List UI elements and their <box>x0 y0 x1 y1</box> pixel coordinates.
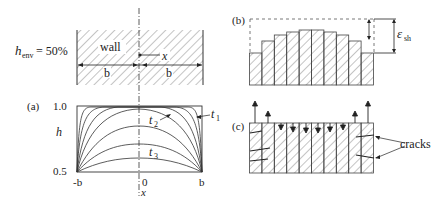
half-width-left: b <box>104 66 110 80</box>
wall-label: wall <box>100 40 121 54</box>
panel-a-tag: (a) <box>27 100 40 113</box>
panel-a-plot: (a) 1.0 0.5 h -b 0 b x t 1 t 2 t 3 <box>27 100 220 198</box>
strain-label: ε <box>397 26 403 41</box>
y-tick-top: 1.0 <box>53 100 67 112</box>
tension-arrows <box>253 101 371 123</box>
x-tick-right: b <box>199 176 205 188</box>
svg-text:2: 2 <box>154 120 158 129</box>
shrunk-strips <box>250 30 374 85</box>
wall-hatch <box>77 30 203 85</box>
figure: wall x b b h env = 50% (a) 1.0 0.5 h -b … <box>0 0 446 204</box>
half-width-right: b <box>166 66 172 80</box>
x-tick-left: -b <box>73 176 83 188</box>
env-sub: env <box>22 51 34 60</box>
env-value: = 50% <box>36 44 68 58</box>
x-label: x <box>161 49 168 63</box>
cracks-label: cracks <box>400 137 431 151</box>
panel-c-tag: (c) <box>232 120 245 133</box>
label-t1: t <box>211 107 215 121</box>
wall-section: wall x b b h env = 50% <box>15 30 203 85</box>
plot-frame <box>77 106 202 172</box>
env-h: h <box>15 43 22 58</box>
label-t3: t <box>149 145 153 159</box>
panel-b: (b) ε sh <box>232 14 411 85</box>
svg-text:1: 1 <box>216 114 220 123</box>
label-t2: t <box>149 113 153 127</box>
x-axis-label: x <box>140 186 146 198</box>
svg-text:sh: sh <box>404 34 411 43</box>
y-axis-label: h <box>56 125 62 139</box>
svg-text:3: 3 <box>154 152 158 161</box>
y-tick-bottom: 0.5 <box>53 165 67 177</box>
curve-t2 <box>77 107 202 172</box>
profile-curves <box>77 107 202 172</box>
panel-c: (c) <box>232 101 431 173</box>
panel-b-tag: (b) <box>232 14 245 27</box>
